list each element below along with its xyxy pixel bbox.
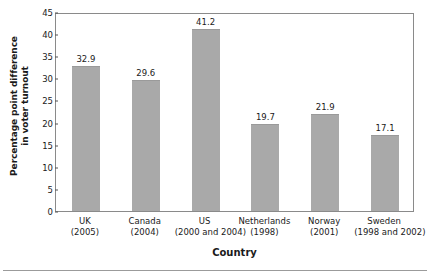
bar-chart-figure: Percentage point difference in voter tur… (0, 0, 430, 278)
bottom-divider (3, 270, 427, 271)
x-category-year: (1998 and 2002) (354, 227, 414, 238)
y-axis-ticks: 051015202530354045 (34, 13, 53, 212)
y-tick-mark (55, 167, 58, 168)
bar-value-label: 21.9 (300, 102, 350, 112)
y-tick-mark (55, 101, 58, 102)
x-category-name: US (175, 216, 235, 227)
x-category-name: UK (55, 216, 115, 227)
bars-container: 32.929.641.219.721.917.1 (56, 14, 413, 211)
y-tick-label: 5 (48, 185, 53, 194)
x-category-label: Canada(2004) (115, 216, 175, 238)
y-tick-label: 30 (42, 75, 53, 84)
y-tick-label: 45 (42, 9, 53, 18)
bar-value-label: 32.9 (61, 54, 111, 64)
x-category-name: Sweden (354, 216, 414, 227)
y-tick-mark (55, 145, 58, 146)
bar (311, 114, 339, 211)
x-axis-category-labels: UK(2005)Canada(2004)US(2000 and 2004)Net… (55, 216, 414, 246)
y-tick-label: 40 (42, 31, 53, 40)
x-category-year: (2004) (115, 227, 175, 238)
y-tick-mark (55, 123, 58, 124)
x-category-name: Netherlands (235, 216, 295, 227)
bar (72, 66, 100, 211)
plot-area: 32.929.641.219.721.917.1 (55, 13, 414, 212)
y-axis-title-line2: in voter turnout (20, 36, 31, 176)
y-tick-mark (55, 57, 58, 58)
x-axis-title: Country (55, 247, 414, 258)
x-category-label: Netherlands(1998) (235, 216, 295, 238)
x-category-label: US(2000 and 2004) (175, 216, 235, 238)
bar-value-label: 41.2 (181, 17, 231, 27)
y-tick-label: 35 (42, 53, 53, 62)
x-category-year: (1998) (235, 227, 295, 238)
bar (371, 135, 399, 211)
x-category-year: (2001) (294, 227, 354, 238)
y-tick-mark (55, 79, 58, 80)
x-category-label: Sweden(1998 and 2002) (354, 216, 414, 238)
y-axis-title-line1: Percentage point difference (9, 36, 19, 176)
bar (132, 80, 160, 211)
y-tick-mark (55, 189, 58, 190)
x-category-label: UK(2005) (55, 216, 115, 238)
y-tick-label: 20 (42, 119, 53, 128)
bar-value-label: 17.1 (360, 123, 410, 133)
x-category-name: Norway (294, 216, 354, 227)
y-tick-label: 0 (48, 208, 53, 217)
x-category-year: (2000 and 2004) (175, 227, 235, 238)
x-category-year: (2005) (55, 227, 115, 238)
bar (192, 29, 220, 211)
y-tick-mark (55, 212, 58, 213)
y-tick-label: 25 (42, 97, 53, 106)
y-tick-label: 10 (42, 163, 53, 172)
bar (251, 124, 279, 211)
x-category-name: Canada (115, 216, 175, 227)
y-tick-mark (55, 35, 58, 36)
x-category-label: Norway(2001) (294, 216, 354, 238)
bar-value-label: 19.7 (240, 112, 290, 122)
y-tick-mark (55, 13, 58, 14)
bar-value-label: 29.6 (121, 68, 171, 78)
y-tick-label: 15 (42, 141, 53, 150)
